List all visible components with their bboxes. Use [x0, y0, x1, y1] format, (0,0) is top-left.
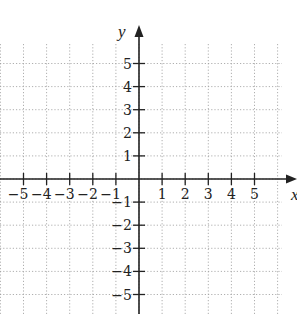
y-axis-arrow-icon — [135, 25, 144, 37]
y-tick-label: −3 — [111, 240, 132, 256]
y-tick-label: −4 — [111, 263, 132, 279]
y-tick-label: 4 — [123, 79, 132, 95]
x-tick-label: 5 — [250, 186, 259, 202]
x-tick-label: 4 — [227, 186, 236, 202]
y-tick-label: −5 — [111, 287, 132, 303]
y-tick-label: 5 — [123, 56, 132, 72]
y-axis-label: y — [116, 22, 126, 41]
x-tick-label: −2 — [77, 186, 98, 202]
x-axis-label: x — [290, 185, 297, 204]
coordinate-plane: −5−4−3−2−112345−5−4−3−2−112345 x y — [0, 0, 297, 314]
axes — [0, 25, 297, 314]
y-tick-label: 3 — [123, 102, 132, 118]
x-axis-arrow-icon — [286, 175, 297, 184]
y-tick-label: −1 — [111, 194, 132, 210]
x-tick-label: −3 — [54, 186, 75, 202]
y-tick-label: 2 — [123, 125, 132, 141]
y-tick-label: −2 — [111, 217, 132, 233]
x-tick-label: −4 — [31, 186, 52, 202]
y-tick-label: 1 — [123, 148, 132, 164]
x-tick-label: 3 — [204, 186, 213, 202]
x-tick-label: −5 — [8, 186, 29, 202]
x-tick-label: 2 — [181, 186, 190, 202]
x-tick-label: 1 — [158, 186, 167, 202]
